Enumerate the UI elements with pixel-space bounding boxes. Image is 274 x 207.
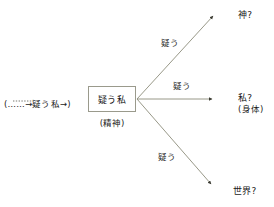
edge-label-god: 疑う (160, 38, 180, 48)
source-annotation: (……→疑う私→) (4, 97, 71, 109)
central-node-sublabel: (精神) (88, 116, 136, 128)
target-node-self-sublabel: (身体) (238, 104, 263, 115)
target-node-god: 神? (238, 10, 252, 21)
target-node-world: 世界? (233, 186, 256, 197)
target-node-god-label: 神? (238, 10, 252, 20)
target-node-world-label: 世界? (233, 186, 256, 196)
edge-label-self: 疑う (172, 81, 192, 91)
central-node-label: 疑う私 (98, 93, 126, 106)
edge-line-world (137, 99, 211, 184)
central-node: 疑う私 (88, 86, 136, 112)
target-node-self-label: 私? (238, 93, 252, 103)
edge-label-world: 疑う (157, 152, 177, 162)
target-node-self: 私? (身体) (238, 93, 263, 115)
diagram-canvas: (……→疑う私→) 疑う私 (精神) 疑う 疑う 疑う 神? 私? (身体) 世… (0, 0, 274, 207)
